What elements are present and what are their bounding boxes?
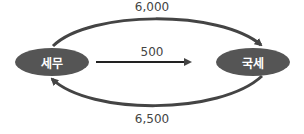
middle-edge-label: 500 (141, 45, 164, 59)
bottom-arrow (52, 76, 262, 106)
node-right-label: 국세 (242, 54, 264, 71)
node-left-label: 세무 (41, 54, 63, 71)
node-left: 세무 (15, 48, 89, 76)
bottom-edge-label: 6,500 (135, 112, 169, 126)
top-edge-label: 6,000 (135, 0, 169, 14)
node-right: 국세 (216, 48, 290, 76)
top-arrow (53, 19, 261, 46)
